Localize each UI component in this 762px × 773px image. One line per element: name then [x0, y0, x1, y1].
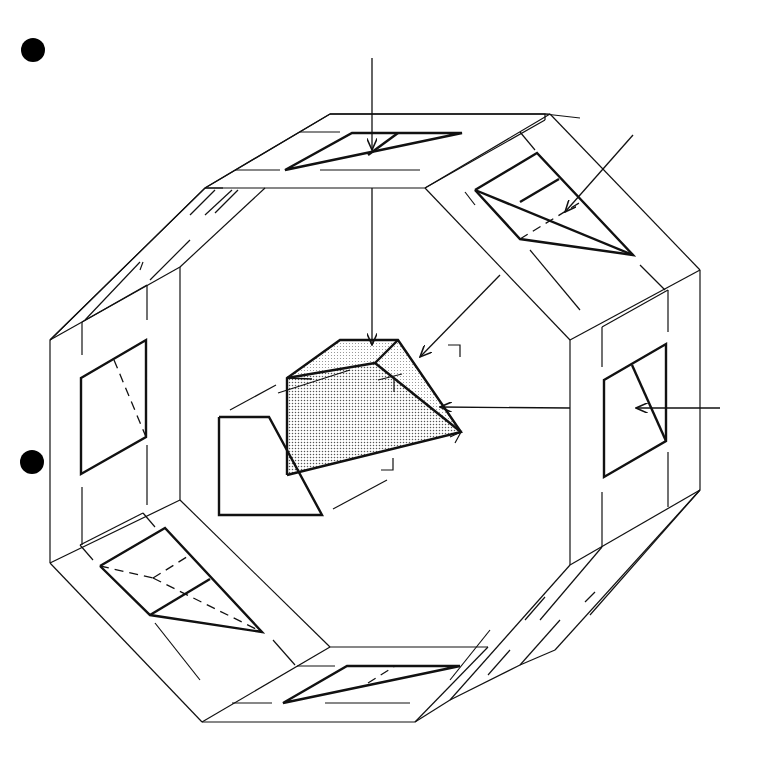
diagram-svg — [0, 0, 762, 773]
corner-mark — [381, 458, 393, 470]
top-view — [285, 133, 462, 170]
bottom-view — [283, 666, 460, 703]
projection-diagram — [0, 0, 762, 773]
wedge-object — [287, 340, 461, 475]
left-side-view — [81, 340, 146, 474]
right-side-view — [604, 344, 666, 477]
bottom-left-view — [100, 528, 262, 632]
top-right-view — [475, 153, 633, 255]
bullet-middle — [20, 450, 44, 474]
arrow-right-icon — [440, 407, 570, 408]
bullet-top — [21, 38, 45, 62]
arrow-top-right-icon — [565, 135, 633, 212]
